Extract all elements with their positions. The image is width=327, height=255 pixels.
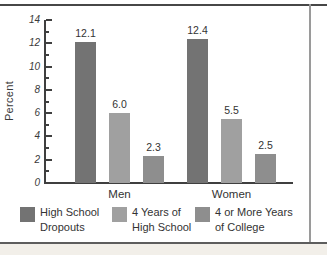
frame-right-rule bbox=[309, 4, 311, 244]
y-tick-major bbox=[46, 19, 52, 21]
x-group-label-women: Women bbox=[192, 188, 272, 200]
bar-value-label: 12.1 bbox=[67, 27, 104, 39]
y-tick-major bbox=[46, 42, 52, 44]
y-tick-minor bbox=[46, 77, 49, 79]
y-tick-minor bbox=[46, 54, 49, 56]
y-tick-label: 8 bbox=[2, 84, 40, 96]
y-axis-title: Percent bbox=[3, 66, 15, 136]
y-tick-label: 4 bbox=[2, 130, 40, 142]
bar-value-label: 6.0 bbox=[101, 98, 138, 110]
page-margin-strip bbox=[0, 244, 327, 255]
y-tick-label: 0 bbox=[2, 177, 40, 189]
y-tick-label: 2 bbox=[2, 154, 40, 166]
legend-swatch-high-school-dropouts bbox=[20, 207, 35, 222]
y-tick-label: 6 bbox=[2, 107, 40, 119]
y-tick-minor bbox=[46, 170, 49, 172]
legend-label-4-or-more-years-of-college: 4 or More Years of College bbox=[215, 205, 293, 234]
y-tick-minor bbox=[46, 31, 49, 33]
y-tick-major bbox=[46, 159, 52, 161]
bar-men-4-years-of-high-school bbox=[109, 113, 130, 183]
y-tick-label: 12 bbox=[2, 37, 40, 49]
y-tick-major bbox=[46, 89, 52, 91]
bar-women-high-school-dropouts bbox=[187, 39, 208, 183]
y-tick-major bbox=[46, 135, 52, 137]
legend-swatch-4-or-more-years-of-college bbox=[195, 207, 210, 222]
bar-value-label: 5.5 bbox=[213, 104, 250, 116]
y-tick-minor bbox=[46, 101, 49, 103]
frame-top-rule bbox=[0, 4, 327, 6]
y-tick-label: 14 bbox=[2, 14, 40, 26]
bar-men-high-school-dropouts bbox=[75, 42, 96, 183]
y-tick-major bbox=[46, 66, 52, 68]
bar-men-4-or-more-years-of-college bbox=[143, 156, 164, 183]
y-tick-label: 10 bbox=[2, 61, 40, 73]
legend-label-high-school-dropouts: High School Dropouts bbox=[40, 205, 99, 234]
y-tick-minor bbox=[46, 147, 49, 149]
y-tick-minor bbox=[46, 124, 49, 126]
x-group-label-men: Men bbox=[80, 188, 160, 200]
bar-chart-figure: Percent 0246810121412.16.02.3Men12.45.52… bbox=[0, 0, 327, 255]
frame-bottom-rule bbox=[0, 242, 327, 244]
bar-value-label: 2.5 bbox=[247, 139, 284, 151]
legend-swatch-4-years-of-high-school bbox=[112, 207, 127, 222]
bar-women-4-years-of-high-school bbox=[221, 119, 242, 183]
bar-value-label: 2.3 bbox=[135, 141, 172, 153]
bar-value-label: 12.4 bbox=[179, 24, 216, 36]
legend-label-4-years-of-high-school: 4 Years of High School bbox=[132, 205, 191, 234]
y-tick-major bbox=[46, 112, 52, 114]
bar-women-4-or-more-years-of-college bbox=[255, 154, 276, 183]
